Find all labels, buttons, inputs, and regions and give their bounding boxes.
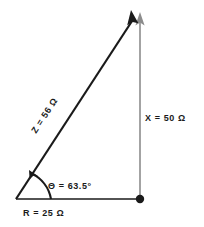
resistance-label: R = 25 Ω [23,208,64,218]
impedance-vector-svg: Z = 56 Ω X = 50 Ω Θ = 63.5° R = 25 Ω [0,0,204,227]
reactance-vector-x [135,12,144,199]
phase-angle-label: Θ = 63.5° [48,181,92,191]
vertex-node-dot [136,195,144,203]
impedance-triangle-diagram: Z = 56 Ω X = 50 Ω Θ = 63.5° R = 25 Ω [0,0,204,227]
impedance-vector-z [16,10,138,199]
impedance-line [16,18,134,199]
reactance-label: X = 50 Ω [145,113,186,123]
impedance-label: Z = 56 Ω [29,96,59,135]
